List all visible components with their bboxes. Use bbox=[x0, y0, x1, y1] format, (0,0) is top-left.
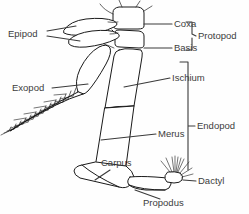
label-protopod: Protopod bbox=[198, 30, 237, 41]
coxa-segment-shape bbox=[113, 7, 144, 29]
label-coxa: Coxa bbox=[174, 18, 197, 29]
ischium-segment-shape bbox=[105, 49, 142, 108]
label-basis: Basis bbox=[174, 42, 197, 53]
label-epipod: Epipod bbox=[8, 28, 38, 39]
label-carpus: Carpus bbox=[101, 157, 132, 168]
diagram-canvas: Epipod Exopod Coxa Basis Ischium Merus C… bbox=[0, 0, 249, 214]
label-propodus: Propodus bbox=[143, 197, 184, 208]
leader-line-dactyl bbox=[183, 180, 196, 181]
label-exopod: Exopod bbox=[12, 82, 44, 93]
label-merus: Merus bbox=[158, 128, 185, 139]
appendage-diagram-figure: Epipod Exopod Coxa Basis Ischium Merus C… bbox=[0, 0, 249, 214]
label-dactyl: Dactyl bbox=[198, 175, 224, 186]
label-endopod: Endopod bbox=[197, 120, 235, 131]
exopod-base-shape bbox=[76, 45, 110, 94]
dactyl-segment-shape bbox=[165, 172, 183, 183]
label-ischium: Ischium bbox=[172, 72, 205, 83]
